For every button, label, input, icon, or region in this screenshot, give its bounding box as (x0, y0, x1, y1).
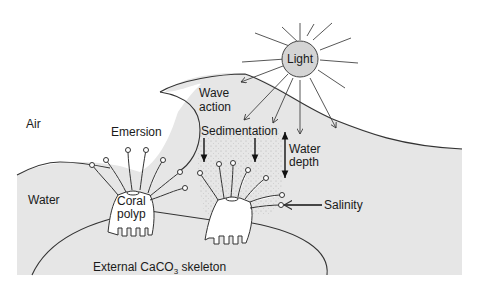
wave-action-label-line2: action (199, 100, 231, 114)
coral-polyp-label-line2: polyp (117, 207, 146, 221)
skeleton-label-prefix: External CaCO (93, 260, 174, 274)
wave-action-label-line1: Wave (199, 86, 229, 100)
coral-environment-diagram (0, 0, 479, 288)
light-label: Light (287, 52, 313, 66)
skeleton-label-suffix: skeleton (178, 260, 226, 274)
emersion-label: Emersion (111, 125, 162, 139)
skeleton-label: External CaCO3 skeleton (93, 260, 226, 279)
salinity-label: Salinity (324, 198, 363, 212)
water-depth-label-line1: Water (289, 142, 321, 156)
water-label: Water (28, 193, 60, 207)
coral-polyp-label-line1: Coral (117, 194, 146, 208)
sedimentation-label: Sedimentation (201, 124, 278, 138)
air-label: Air (26, 117, 41, 131)
water-depth-label-line2: depth (289, 155, 319, 169)
